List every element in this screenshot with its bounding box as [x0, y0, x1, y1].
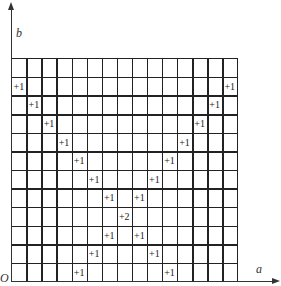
vote-count: +1 — [59, 138, 70, 148]
x-axis-arrow-icon — [272, 278, 280, 284]
grid-horizontal-line — [12, 188, 237, 190]
grid-horizontal-line — [12, 133, 237, 135]
vote-count: +1 — [74, 268, 85, 278]
vote-count: +1 — [44, 119, 55, 129]
grid-horizontal-line — [12, 151, 237, 153]
x-axis — [11, 281, 276, 282]
x-axis-label: a — [256, 262, 262, 277]
grid-horizontal-line — [12, 114, 237, 116]
y-axis-label: b — [16, 26, 22, 41]
vote-count: +1 — [149, 249, 160, 259]
vote-count: +1 — [149, 175, 160, 185]
vote-count: +1 — [134, 231, 145, 241]
vote-count: +1 — [89, 175, 100, 185]
vote-count: +1 — [179, 138, 190, 148]
vote-count: +1 — [104, 231, 115, 241]
vote-count: +2 — [119, 212, 130, 222]
vote-count: +1 — [134, 193, 145, 203]
vote-count: +1 — [164, 268, 175, 278]
grid-horizontal-line — [12, 244, 237, 246]
grid-horizontal-line — [12, 170, 237, 172]
vote-count: +1 — [89, 249, 100, 259]
y-axis-arrow-icon — [8, 2, 14, 10]
vote-count: +1 — [14, 82, 25, 92]
vote-count: +1 — [194, 119, 205, 129]
vote-count: +1 — [209, 100, 220, 110]
vote-count: +1 — [164, 156, 175, 166]
grid-horizontal-line — [12, 207, 237, 209]
vote-count: +1 — [74, 156, 85, 166]
grid-horizontal-line — [12, 226, 237, 228]
vote-count: +1 — [29, 100, 40, 110]
grid-horizontal-line — [12, 263, 237, 265]
grid-horizontal-line — [12, 95, 237, 97]
origin-label: O — [0, 271, 9, 286]
vote-count: +1 — [224, 82, 235, 92]
accumulator-grid: +1+1+1+1+1+1+1+1+1+1+1+1+1+1+2+1+1+1+1+1… — [12, 58, 238, 281]
grid-horizontal-line — [12, 77, 237, 79]
vote-count: +1 — [104, 193, 115, 203]
